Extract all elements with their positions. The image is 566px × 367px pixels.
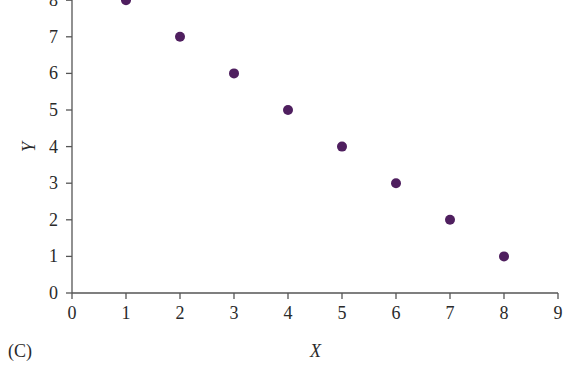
scatter-plot: 0123456789012345678 xyxy=(0,0,566,367)
x-tick-label: 2 xyxy=(176,303,185,323)
x-tick-label: 7 xyxy=(446,303,455,323)
y-tick-label: 6 xyxy=(49,63,58,83)
y-tick-label: 2 xyxy=(49,210,58,230)
x-tick-label: 5 xyxy=(338,303,347,323)
y-axis-label: Y xyxy=(20,142,38,152)
y-tick-label: 4 xyxy=(49,137,58,157)
data-point xyxy=(391,178,401,188)
data-point xyxy=(337,142,347,152)
x-tick-label: 9 xyxy=(554,303,563,323)
data-point xyxy=(499,251,509,261)
x-tick-label: 1 xyxy=(122,303,131,323)
y-tick-label: 7 xyxy=(49,27,58,47)
data-point xyxy=(283,105,293,115)
x-tick-label: 0 xyxy=(68,303,77,323)
y-tick-label: 1 xyxy=(49,246,58,266)
y-tick-label: 8 xyxy=(49,0,58,10)
x-tick-label: 6 xyxy=(392,303,401,323)
data-point xyxy=(445,215,455,225)
y-tick-label: 0 xyxy=(49,283,58,303)
x-tick-label: 3 xyxy=(230,303,239,323)
y-tick-label: 5 xyxy=(49,100,58,120)
panel-label: (C) xyxy=(8,342,32,360)
y-tick-label: 3 xyxy=(49,173,58,193)
data-point xyxy=(121,0,131,5)
x-tick-label: 8 xyxy=(500,303,509,323)
data-point xyxy=(175,32,185,42)
x-axis-label: X xyxy=(310,342,321,360)
x-tick-label: 4 xyxy=(284,303,293,323)
data-point xyxy=(229,68,239,78)
